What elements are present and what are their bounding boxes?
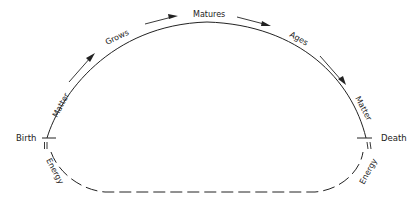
death-label: Death: [381, 133, 407, 143]
matter-label-left: Matter: [51, 91, 72, 119]
matter-label-right: Matter: [353, 95, 374, 123]
ages-label: Ages: [288, 30, 310, 48]
grows-label: Grows: [104, 28, 130, 47]
life-cycle-diagram: Birth Death Matter Grows Matures Ages Ma…: [0, 0, 415, 203]
death-equals-2: [370, 142, 371, 149]
energy-label-left: Energy: [44, 157, 65, 186]
energy-arc: [51, 152, 363, 192]
matter-arc: [47, 22, 366, 138]
arrow-icon-4: [320, 56, 346, 85]
arrow-icon-3: [237, 17, 271, 26]
matures-label: Matures: [193, 10, 225, 19]
birth-label: Birth: [16, 133, 36, 143]
arrow-icon-2: [145, 14, 178, 24]
energy-label-right: Energy: [358, 157, 379, 186]
death-equals-1: [367, 142, 368, 149]
